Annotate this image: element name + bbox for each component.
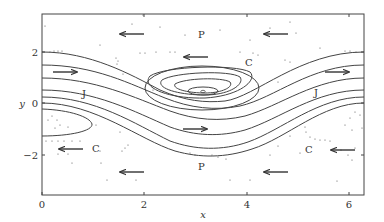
label-j-left: J	[81, 88, 86, 99]
jet-streamline-5	[42, 97, 364, 148]
y-tick-2: 2	[32, 47, 38, 58]
cell-contour-5	[188, 87, 218, 95]
x-tick-0: 0	[39, 199, 45, 210]
label-c-bottom-left: C	[92, 143, 100, 154]
label-c-bottom-right: C	[305, 144, 313, 155]
y-tick-neg2: −2	[23, 150, 38, 161]
x-tick-2: 2	[141, 199, 147, 210]
y-axis-label: y	[18, 98, 25, 109]
streamline-figure: P C J J C C P 0 2 4 6 2 0 −2 x y	[0, 0, 384, 222]
x-axis-label: x	[200, 209, 206, 220]
cell-contour-4	[175, 79, 231, 93]
plot-area: P C J J C C P	[42, 14, 364, 181]
x-tick-6: 6	[346, 199, 352, 210]
lower-left-cell	[42, 109, 92, 136]
label-j-right: J	[313, 87, 318, 98]
label-p-top: P	[198, 29, 205, 40]
y-tick-0: 0	[32, 98, 38, 109]
label-p-bottom: P	[198, 161, 205, 172]
label-c-top: C	[245, 57, 253, 68]
cell-center	[201, 90, 205, 92]
x-tick-4: 4	[244, 199, 250, 210]
